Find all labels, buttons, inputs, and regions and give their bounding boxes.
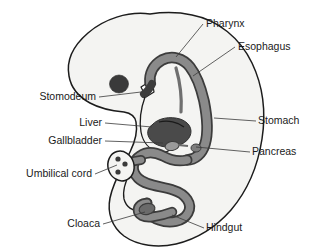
label-stomach: Stomach xyxy=(258,114,300,126)
umbilical-vessel-1 xyxy=(115,156,120,161)
embryo-digestive-diagram: Pharynx Esophagus Stomach Pancreas Hindg… xyxy=(0,0,318,251)
label-pancreas: Pancreas xyxy=(252,145,296,157)
eye-spot xyxy=(110,75,129,93)
label-esophagus: Esophagus xyxy=(238,40,291,52)
label-liver: Liver xyxy=(79,116,102,128)
diagram-canvas: Pharynx Esophagus Stomach Pancreas Hindg… xyxy=(0,0,318,251)
pancreas-bud xyxy=(191,144,201,152)
label-stomodeum: Stomodeum xyxy=(39,90,96,102)
cystic-duct xyxy=(178,145,188,146)
umbilical-vessel-2 xyxy=(122,161,127,166)
umbilical-vessel-3 xyxy=(115,169,120,174)
pancreas-body xyxy=(191,144,201,152)
label-cloaca: Cloaca xyxy=(67,217,100,229)
label-gallbladder: Gallbladder xyxy=(48,134,102,146)
label-umbilical-cord: Umbilical cord xyxy=(26,167,92,179)
label-hindgut: Hindgut xyxy=(206,221,242,233)
label-pharynx: Pharynx xyxy=(206,17,245,29)
